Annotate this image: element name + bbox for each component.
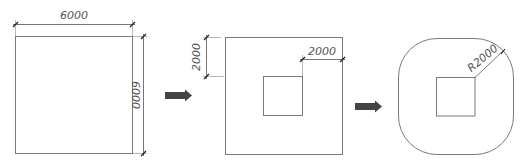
arrow-right-icon xyxy=(165,90,192,102)
step2-square-group: 2000 2000 xyxy=(190,35,345,155)
inner-square xyxy=(264,77,303,116)
width-dimension: 6000 xyxy=(13,9,135,36)
step1-square-group: 6000 6000 xyxy=(13,9,147,156)
vertical-offset-label: 2000 xyxy=(190,43,203,71)
arrow-right-icon xyxy=(355,101,382,113)
step3-rounded-group: R2000 xyxy=(399,39,514,155)
horizontal-offset-dimension: 2000 xyxy=(300,45,345,76)
vertical-offset-dimension: 2000 xyxy=(190,35,224,79)
outer-square xyxy=(16,37,133,154)
height-dimension: 6000 xyxy=(129,34,147,156)
rounded-outline xyxy=(399,39,514,155)
horizontal-offset-label: 2000 xyxy=(308,45,336,58)
diagram-canvas: 6000 6000 2000 xyxy=(0,0,525,168)
inner-square xyxy=(437,78,476,117)
width-label: 6000 xyxy=(60,9,88,22)
height-label: 6000 xyxy=(129,81,142,109)
